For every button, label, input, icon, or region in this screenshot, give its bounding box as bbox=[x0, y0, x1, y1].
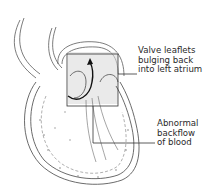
leader-line-backflow bbox=[93, 106, 155, 143]
label-abnormal-backflow: Abnormal backflow of blood bbox=[157, 119, 198, 148]
label-line: of blood bbox=[157, 138, 198, 148]
great-vessels bbox=[14, 18, 62, 78]
heart-illustration bbox=[0, 0, 214, 196]
ventricle-inner-wall bbox=[41, 96, 126, 173]
label-valve-leaflets: Valve leaflets bulging back into left at… bbox=[138, 46, 202, 75]
label-line: into left atrium bbox=[138, 65, 202, 75]
